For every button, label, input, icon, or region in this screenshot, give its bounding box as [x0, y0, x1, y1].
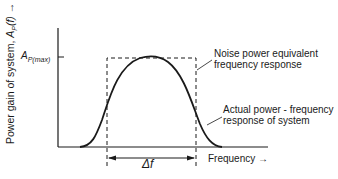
arrow-right-icon — [187, 156, 195, 161]
ymax-label: AP(max) — [21, 50, 50, 63]
arrow-left-icon — [108, 156, 116, 161]
leader-line-noise — [197, 60, 212, 70]
annotation-noise-equivalent: Noise power equivalent frequency respons… — [214, 48, 318, 70]
x-axis-label: Frequency → — [208, 153, 268, 164]
actual-response-curve — [80, 56, 222, 147]
y-axis-label: Power gain of system, AP(f) → — [4, 3, 18, 144]
bandwidth-label: Δf — [142, 157, 153, 171]
leader-line-actual — [207, 117, 222, 125]
diagram-canvas — [0, 0, 338, 179]
annotation-actual-response: Actual power - frequency response of sys… — [223, 104, 334, 126]
